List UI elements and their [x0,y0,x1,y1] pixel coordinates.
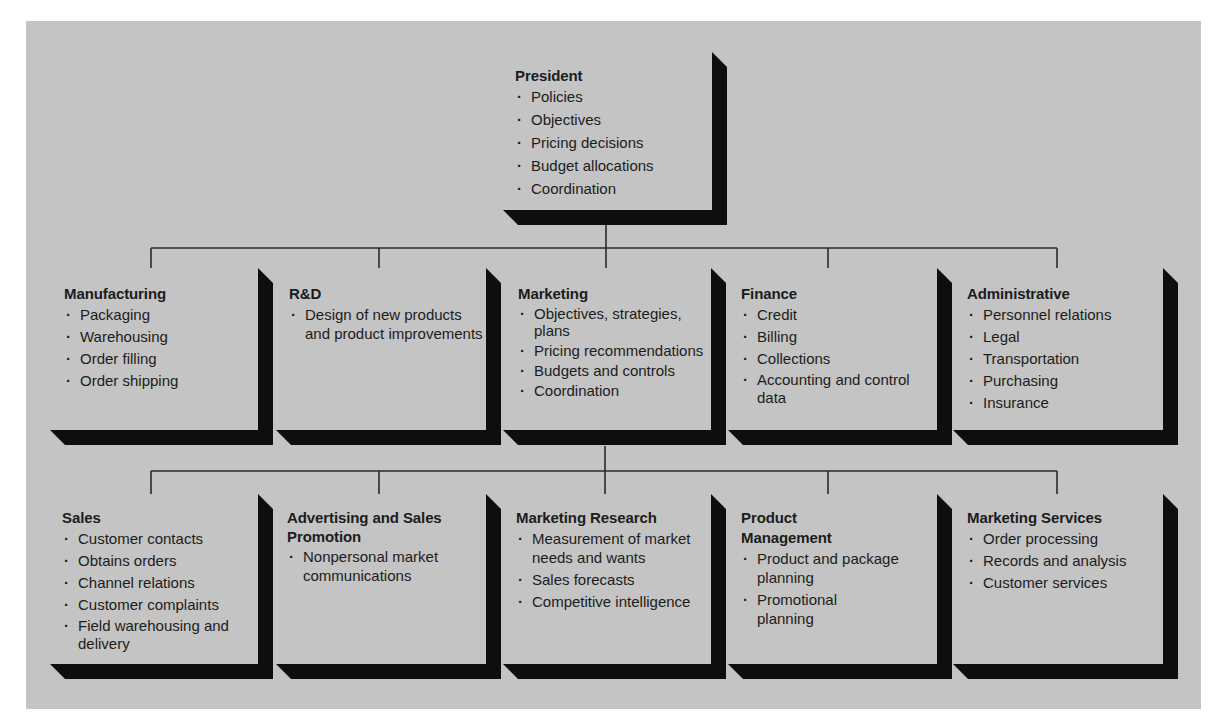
list-item: Sales forecasts [516,570,706,589]
list-item: Customer services [967,573,1162,592]
responsibility-list: Objectives, strategies, plans Pricing re… [518,305,710,399]
frame-bottom-edge [276,430,501,445]
box-title: Finance [741,284,921,304]
list-item: Packaging [64,305,254,324]
box-title: Advertising and Sales Promotion [287,508,477,546]
responsibility-list: Policies Objectives Pricing decisions Bu… [515,87,710,198]
frame-right-edge [258,268,273,445]
responsibility-list: Customer contacts Obtains orders Channel… [62,529,256,653]
list-item: Channel relations [62,573,256,592]
responsibility-list: Product and package planning Promotional… [741,549,921,628]
list-item: Objectives [515,110,710,129]
box-title: Marketing [518,284,710,304]
list-item: Purchasing [967,371,1162,390]
department-box-administrative: Administrative Personnel relations Legal… [967,284,1162,415]
box-title: R&D [289,284,485,304]
responsibility-list: Design of new products and product impro… [289,305,485,343]
responsibility-list: Personnel relations Legal Transportation… [967,305,1162,412]
list-item: Design of new products and product impro… [289,305,485,343]
frame-right-edge [258,494,273,679]
frame-right-edge [1163,494,1178,679]
list-item: Customer contacts [62,529,256,548]
frame-bottom-edge [503,664,726,679]
list-item: Order filling [64,349,254,368]
list-item: Coordination [518,382,710,399]
department-box-marketing: Marketing Objectives, strategies, plans … [518,284,710,402]
marketing-unit-box-services: Marketing Services Order processing Reco… [967,508,1162,595]
box-title: Sales [62,508,256,528]
department-box-manufacturing: Manufacturing Packaging Warehousing Orde… [64,284,254,393]
list-item: Order shipping [64,371,254,390]
responsibility-list: Order processing Records and analysis Cu… [967,529,1162,592]
list-item: Competitive intelligence [516,592,706,611]
responsibility-list: Measurement of market needs and wants Sa… [516,529,706,611]
box-title: Marketing Services [967,508,1162,528]
frame-right-edge [711,494,726,679]
list-item: Collections [741,349,921,368]
list-item: Customer complaints [62,595,256,614]
marketing-unit-box-advertising: Advertising and Sales Promotion Nonperso… [287,508,477,588]
list-item: Measurement of market needs and wants [516,529,706,567]
list-item: Credit [741,305,921,324]
list-item: Warehousing [64,327,254,346]
list-item: Nonpersonal market communications [287,547,477,585]
list-item: Field warehousing and delivery [62,617,256,653]
list-item: Insurance [967,393,1162,412]
frame-right-edge [937,268,952,445]
frame-right-edge [711,268,726,445]
department-box-finance: Finance Credit Billing Collections Accou… [741,284,921,410]
list-item: Promotional planning [741,590,857,628]
responsibility-list: Credit Billing Collections Accounting an… [741,305,921,407]
list-item: Records and analysis [967,551,1162,570]
list-item: Product and package planning [741,549,921,587]
box-title: Manufacturing [64,284,254,304]
frame-right-edge [712,52,727,225]
frame-right-edge [486,268,501,445]
responsibility-list: Nonpersonal market communications [287,547,477,585]
list-item: Coordination [515,179,710,198]
frame-bottom-edge [503,430,726,445]
frame-bottom-edge [953,664,1178,679]
list-item: Obtains orders [62,551,256,570]
list-item: Pricing decisions [515,133,710,152]
list-item: Order processing [967,529,1162,548]
frame-bottom-edge [728,430,952,445]
box-title: Product Management [741,508,861,548]
list-item: Billing [741,327,921,346]
list-item: Budget allocations [515,156,710,175]
frame-bottom-edge [50,664,273,679]
marketing-unit-box-research: Marketing Research Measurement of market… [516,508,706,614]
frame-right-edge [937,494,952,679]
list-item: Transportation [967,349,1162,368]
marketing-unit-box-sales: Sales Customer contacts Obtains orders C… [62,508,256,656]
list-item: Budgets and controls [518,362,710,379]
frame-right-edge [1163,268,1178,445]
box-title: President [515,66,710,86]
list-item: Pricing recommendations [518,342,710,359]
box-title: Administrative [967,284,1162,304]
list-item: Accounting and control data [741,371,921,407]
frame-bottom-edge [50,430,273,445]
list-item: Personnel relations [967,305,1162,324]
frame-bottom-edge [728,664,952,679]
list-item: Policies [515,87,710,106]
department-box-rd: R&D Design of new products and product i… [289,284,485,346]
marketing-unit-box-product-management: Product Management Product and package p… [741,508,921,631]
president-box: President Policies Objectives Pricing de… [515,66,710,202]
box-title: Marketing Research [516,508,706,528]
frame-right-edge [486,494,501,679]
list-item: Legal [967,327,1162,346]
frame-bottom-edge [953,430,1178,445]
frame-bottom-edge [276,664,501,679]
list-item: Objectives, strategies, plans [518,305,710,339]
frame-bottom-edge [503,210,727,225]
responsibility-list: Packaging Warehousing Order filling Orde… [64,305,254,390]
